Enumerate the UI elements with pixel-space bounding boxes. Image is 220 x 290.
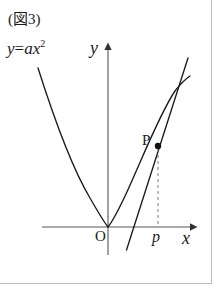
point-p-label: P xyxy=(142,132,150,149)
figure-page: (図3) y=ax2 y x O p P xyxy=(0,0,220,290)
abscissa-p-label: p xyxy=(152,228,160,246)
y-axis-label: y xyxy=(90,38,98,59)
point-p-marker xyxy=(155,143,161,149)
tangent-line xyxy=(127,58,189,250)
x-axis-arrowhead xyxy=(190,223,198,231)
x-axis-label: x xyxy=(182,228,190,249)
parabola-curve xyxy=(38,68,190,227)
y-axis-arrowhead xyxy=(104,43,111,51)
x-axis xyxy=(42,223,198,231)
origin-label: O xyxy=(95,228,106,245)
